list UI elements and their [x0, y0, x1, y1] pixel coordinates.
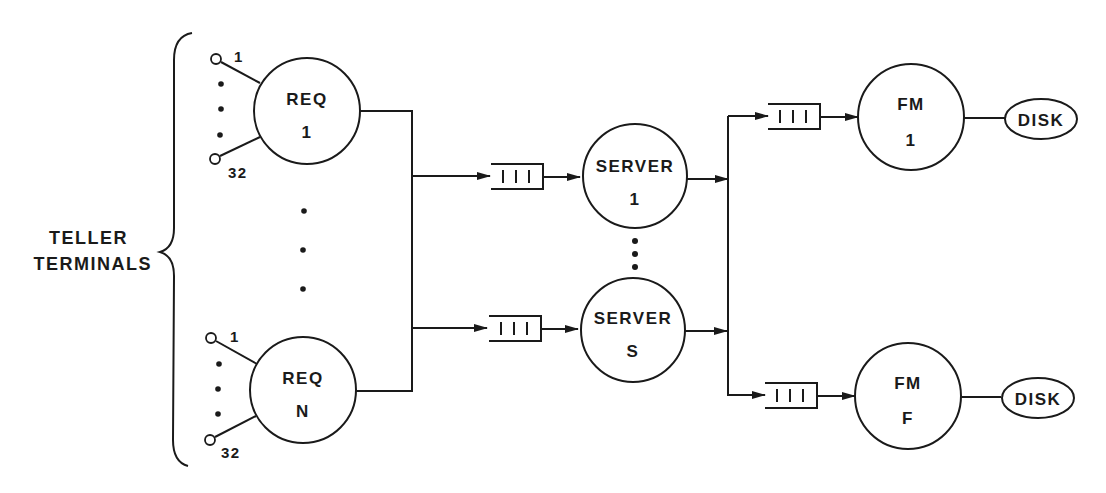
ellipsis-dot	[216, 361, 222, 367]
server-ellipsis	[632, 238, 638, 270]
disk-label: DISK	[1018, 111, 1065, 130]
teller-system-queueing-diagram: TELLER TERMINALS 1 32 REQ 1 1 32	[0, 0, 1106, 493]
fm-node	[858, 64, 964, 170]
req-title: REQ	[282, 369, 323, 388]
group-label-line1: TELLER	[49, 228, 128, 248]
server-node	[583, 124, 687, 228]
file-manager-bus	[685, 116, 768, 395]
server-queue-s	[489, 316, 578, 341]
fm-queue-1	[768, 104, 858, 129]
req-node	[254, 58, 360, 164]
ellipsis-dot	[218, 106, 224, 112]
requester-n: 1 32 REQ N	[205, 328, 356, 461]
ellipsis-dot	[218, 81, 224, 87]
terminal-icon	[211, 54, 221, 64]
terminal-first-label: 1	[234, 48, 244, 65]
terminal-icon	[206, 333, 216, 343]
file-manager-1: FM 1 DISK	[858, 64, 1077, 170]
server-id: S	[627, 342, 640, 361]
req-id: 1	[302, 123, 313, 142]
ellipsis-dot	[215, 411, 221, 417]
disk-label: DISK	[1015, 390, 1062, 409]
server-id: 1	[630, 190, 641, 209]
terminal-first-label: 1	[230, 328, 240, 345]
curly-brace	[160, 33, 192, 466]
ellipsis-dot	[215, 386, 221, 392]
server-s: SERVER S	[581, 278, 685, 382]
terminal-last-label: 32	[221, 444, 241, 461]
fm-id: 1	[906, 131, 917, 150]
server-title: SERVER	[596, 157, 675, 176]
terminal-icon	[210, 154, 220, 164]
group-label-line2: TERMINALS	[34, 254, 153, 274]
server-queue-1	[491, 164, 580, 189]
server-1: SERVER 1	[583, 124, 687, 228]
fm-node	[855, 343, 961, 449]
terminal-last-label: 32	[228, 164, 248, 181]
teller-terminals-label: TELLER TERMINALS	[34, 228, 153, 274]
fm-queue-f	[765, 383, 855, 408]
file-manager-f: FM F DISK	[855, 343, 1074, 449]
req-id: N	[296, 402, 310, 421]
fm-title: FM	[894, 374, 922, 393]
server-title: SERVER	[594, 309, 673, 328]
requester-ellipsis	[300, 208, 307, 292]
req-node	[250, 337, 356, 443]
ellipsis-dot	[217, 132, 223, 138]
req-title: REQ	[286, 90, 327, 109]
fm-title: FM	[897, 95, 925, 114]
fm-id: F	[902, 409, 914, 428]
server-node	[581, 278, 685, 382]
request-bus	[356, 111, 490, 391]
requester-1: 1 32 REQ 1	[210, 48, 360, 181]
terminal-icon	[205, 435, 215, 445]
